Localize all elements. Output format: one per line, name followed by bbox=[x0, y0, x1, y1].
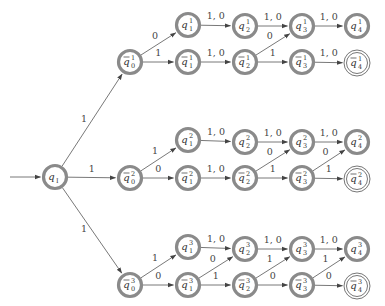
state-label: q bbox=[350, 173, 356, 184]
state-superscript: 1 bbox=[131, 54, 135, 62]
state-superscript: 2 bbox=[303, 170, 307, 178]
transition-label: 1 bbox=[267, 253, 273, 264]
transition-edge bbox=[62, 188, 121, 273]
state-q1_3: q31 bbox=[177, 236, 200, 259]
state-qb1_2: q21 bbox=[177, 167, 200, 190]
state-superscript: 2 bbox=[303, 134, 307, 142]
state-qb4_2: q24 bbox=[344, 166, 370, 192]
transition-edge bbox=[315, 285, 343, 286]
transition-edge bbox=[201, 247, 231, 248]
state-label: q bbox=[123, 56, 129, 67]
state-superscript: 1 bbox=[189, 17, 193, 25]
state-label: q bbox=[350, 280, 356, 291]
state-label: q bbox=[48, 171, 54, 182]
state-subscript: 2 bbox=[246, 249, 250, 257]
transition-label: 1, 0 bbox=[320, 47, 338, 58]
transition-label: 0 bbox=[155, 270, 161, 281]
transition-label: 1 bbox=[152, 252, 158, 263]
state-qb2_1: q12 bbox=[234, 51, 257, 74]
transition-label: 1, 0 bbox=[320, 127, 338, 138]
transition-edge bbox=[68, 177, 116, 178]
state-superscript: 1 bbox=[189, 54, 193, 62]
transition-label: 0 bbox=[152, 30, 158, 41]
state-subscript: 4 bbox=[358, 286, 362, 294]
state-label: q bbox=[238, 172, 244, 183]
state-subscript: 3 bbox=[303, 62, 307, 70]
state-subscript: 3 bbox=[303, 285, 307, 293]
state-label: q bbox=[181, 279, 187, 290]
transition-label: 1, 0 bbox=[264, 127, 282, 138]
state-subscript: 4 bbox=[358, 26, 362, 34]
transition-label: 1 bbox=[81, 113, 87, 124]
state-subscript: 4 bbox=[358, 179, 362, 187]
state-subscript: 4 bbox=[358, 142, 362, 150]
state-subscript: 3 bbox=[303, 142, 307, 150]
state-subscript: 4 bbox=[358, 249, 362, 257]
transition-label: 0 bbox=[155, 163, 161, 174]
state-q3_1: q13 bbox=[291, 15, 314, 38]
state-q2_3: q32 bbox=[234, 238, 257, 261]
transition-edge bbox=[201, 25, 231, 26]
state-superscript: 2 bbox=[189, 170, 193, 178]
state-subscript: 0 bbox=[131, 178, 135, 186]
transition-label: 1, 0 bbox=[320, 11, 338, 22]
transition-label: 1 bbox=[213, 270, 219, 281]
state-q3_2: q23 bbox=[291, 131, 314, 154]
state-label: q bbox=[295, 279, 301, 290]
state-q1_2: q21 bbox=[177, 129, 200, 152]
state-subscript: I bbox=[56, 177, 59, 185]
state-label: q bbox=[350, 57, 356, 68]
state-label: q bbox=[238, 279, 244, 290]
state-superscript: 3 bbox=[358, 241, 362, 249]
state-superscript: 2 bbox=[358, 134, 362, 142]
state-qb2_3: q32 bbox=[234, 274, 257, 297]
transition-label: 1 bbox=[89, 163, 95, 174]
state-subscript: 0 bbox=[131, 285, 135, 293]
state-superscript: 1 bbox=[358, 55, 362, 63]
state-subscript: 1 bbox=[189, 285, 193, 293]
state-superscript: 3 bbox=[131, 277, 135, 285]
transition-label: 1, 0 bbox=[207, 163, 225, 174]
state-subscript: 2 bbox=[246, 285, 250, 293]
state-label: q bbox=[350, 243, 356, 254]
transition-label: 0 bbox=[326, 270, 332, 281]
transition-label: 0 bbox=[267, 146, 273, 157]
state-superscript: 3 bbox=[189, 277, 193, 285]
automaton-diagram: 111011, 01, 01, 0011, 01, 0101, 01, 01, … bbox=[0, 0, 385, 306]
state-q1_1: q11 bbox=[177, 14, 200, 37]
state-superscript: 1 bbox=[303, 54, 307, 62]
state-qb3_1: q13 bbox=[291, 51, 314, 74]
transition-edge bbox=[315, 62, 343, 63]
state-qb0_2: q20 bbox=[119, 167, 142, 190]
state-superscript: 3 bbox=[246, 241, 250, 249]
state-label: q bbox=[123, 279, 129, 290]
transition-label: 1 bbox=[323, 253, 329, 264]
transition-label: 0 bbox=[210, 253, 216, 264]
transition-edge bbox=[315, 178, 343, 179]
state-label: q bbox=[238, 56, 244, 67]
transition-label: 0 bbox=[323, 146, 329, 157]
transition-edge bbox=[201, 140, 231, 141]
state-qb0_3: q30 bbox=[119, 274, 142, 297]
state-q4_3: q34 bbox=[346, 238, 369, 261]
state-subscript: 2 bbox=[246, 142, 250, 150]
state-superscript: 3 bbox=[189, 239, 193, 247]
state-q2_1: q12 bbox=[234, 15, 257, 38]
state-q2_2: q22 bbox=[234, 131, 257, 154]
state-superscript: 3 bbox=[246, 277, 250, 285]
state-label: q bbox=[350, 136, 356, 147]
transition-label: 0 bbox=[270, 270, 276, 281]
state-superscript: 1 bbox=[358, 18, 362, 26]
transition-label: 0 bbox=[267, 30, 273, 41]
state-label: q bbox=[181, 56, 187, 67]
state-qb4_3: q34 bbox=[344, 273, 370, 299]
state-qb1_1: q11 bbox=[177, 51, 200, 74]
state-label: q bbox=[181, 241, 187, 252]
state-subscript: 3 bbox=[303, 249, 307, 257]
state-qb3_2: q23 bbox=[291, 167, 314, 190]
state-qb1_3: q31 bbox=[177, 274, 200, 297]
state-label: q bbox=[350, 20, 356, 31]
state-label: q bbox=[295, 243, 301, 254]
state-label: q bbox=[295, 172, 301, 183]
transition-label: 1 bbox=[152, 145, 158, 156]
